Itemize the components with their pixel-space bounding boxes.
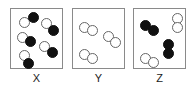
panel-x (10, 8, 63, 69)
panel-z-label: Z (133, 72, 186, 84)
open-atom-icon (110, 37, 121, 48)
filled-atom-icon (47, 47, 58, 58)
filled-atom-icon (148, 25, 159, 36)
open-atom-icon (87, 25, 98, 36)
panel-y (72, 8, 125, 69)
open-atom-icon (87, 53, 98, 64)
open-atom-icon (172, 22, 183, 33)
panel-y-label: Y (72, 72, 125, 84)
filled-atom-icon (48, 25, 59, 36)
filled-atom-icon (25, 36, 36, 47)
filled-atom-icon (23, 58, 34, 69)
panel-z (133, 8, 186, 69)
panel-x-label: X (10, 72, 63, 84)
filled-atom-icon (28, 12, 39, 23)
filled-atom-icon (163, 48, 174, 59)
open-atom-icon (148, 57, 159, 68)
